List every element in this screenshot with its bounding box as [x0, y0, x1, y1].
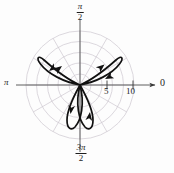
axis-label-zero: 0 — [160, 78, 165, 88]
polar-plot-figure: π 2 3π 2 π 0 5 10 — [0, 0, 174, 173]
axis-label-3pi-over-2: 3π 2 — [75, 143, 86, 164]
fraction-numerator: π — [77, 2, 84, 11]
axis-label-pi: π — [4, 78, 9, 87]
fraction-denominator: 2 — [77, 13, 84, 22]
fraction-denominator: 2 — [75, 154, 86, 163]
fraction-3pi-over-2: 3π 2 — [75, 143, 86, 164]
axis-label-pi-over-2: π 2 — [77, 2, 84, 23]
petal-upper-right — [80, 57, 122, 85]
arrow-upper-right-outbound — [96, 62, 107, 73]
petal-upper-left — [38, 57, 80, 85]
polar-plot-canvas — [0, 0, 174, 173]
fraction-pi-over-2: π 2 — [77, 2, 84, 23]
radial-tick-label-5: 5 — [104, 87, 109, 96]
radial-tick-label-10: 10 — [126, 87, 135, 96]
fraction-numerator: 3π — [75, 143, 86, 152]
